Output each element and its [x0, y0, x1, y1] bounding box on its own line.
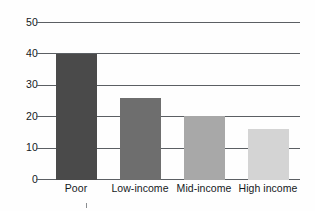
bar-chart: 50 40 30 20 10 0 Poor Low-income Mid-inc…	[0, 0, 315, 211]
bar-poor[interactable]	[56, 54, 97, 180]
y-tick-label-50: 50	[18, 17, 38, 28]
y-tick-label-0: 0	[18, 174, 38, 185]
x-label-high-income: High income	[236, 182, 300, 195]
bar-low-income[interactable]	[120, 98, 161, 180]
y-axis-tick-labels: 50 40 30 20 10 0	[18, 0, 38, 211]
x-axis-category-labels: Poor Low-income Mid-income High income	[44, 182, 300, 202]
y-tick-label-20: 20	[18, 111, 38, 122]
scan-artifact	[86, 203, 87, 208]
x-label-low-income: Low-income	[108, 182, 172, 195]
x-label-poor: Poor	[44, 182, 108, 195]
y-tick-label-10: 10	[18, 142, 38, 153]
y-tick-label-30: 30	[18, 79, 38, 90]
x-label-mid-income: Mid-income	[172, 182, 236, 195]
y-tick-label-40: 40	[18, 48, 38, 59]
bar-mid-income[interactable]	[184, 116, 225, 180]
bar-high-income[interactable]	[248, 129, 289, 181]
plot-area	[44, 22, 300, 180]
